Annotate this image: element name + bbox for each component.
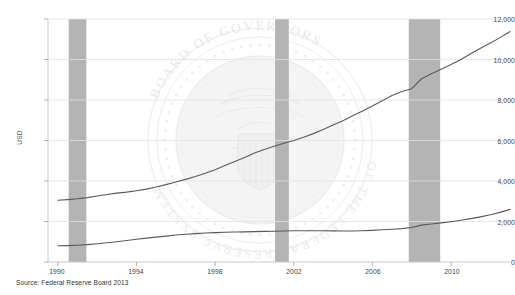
source-caption: Source: Federal Reserve Board 2013: [16, 279, 129, 286]
y-axis-tick-label: 12,000: [471, 16, 515, 23]
y-axis-tick-label: 4,000: [471, 178, 515, 185]
chart-container: USD 12,000 10,000 8,000 6,000 4,000 2,00…: [0, 0, 515, 295]
y-axis-title: USD: [16, 118, 23, 158]
plot-area: BOARD OF GOVERNORS OF THE FEDERAL RESERV…: [0, 0, 515, 295]
x-axis-tick-label: 2010: [432, 268, 472, 275]
x-axis-tick-label: 1994: [116, 268, 156, 275]
y-axis-tick-label: 10,000: [471, 56, 515, 63]
federal-reserve-seal-watermark: BOARD OF GOVERNORS OF THE FEDERAL RESERV…: [147, 18, 380, 262]
x-axis-tick-label: 1990: [37, 268, 77, 275]
y-axis-tick-label: 0: [471, 259, 515, 266]
y-axis-tick-label: 6,000: [471, 137, 515, 144]
y-axis-tick-label: 2,000: [471, 218, 515, 225]
x-axis-tick-label: 2006: [353, 268, 393, 275]
x-axis-tick-label: 1998: [195, 268, 235, 275]
x-axis-tick-label: 2002: [274, 268, 314, 275]
y-axis-tick-label: 8,000: [471, 97, 515, 104]
